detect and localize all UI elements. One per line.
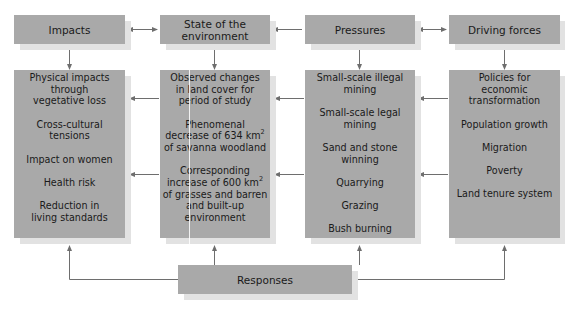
- responses-box: Responses: [178, 265, 352, 294]
- pressures-column: Small-scale illegal mining Small-scale l…: [305, 70, 415, 238]
- state-header: State of the environment: [160, 15, 270, 44]
- pressures-header-label: Pressures: [335, 24, 385, 36]
- state-item-text: Phenomenal decrease of 634 km: [165, 119, 260, 142]
- impact-item: Health risk: [40, 177, 100, 189]
- pressure-item: Small-scale illegal mining: [305, 72, 415, 95]
- pressures-header: Pressures: [305, 15, 415, 44]
- impacts-column: Physical impacts through vegetative loss…: [14, 70, 125, 238]
- state-item-text: of savanna woodland: [164, 142, 266, 153]
- pressure-item: Small-scale legal mining: [305, 107, 415, 130]
- divider-line: [189, 70, 190, 245]
- state-item-text: Corresponding increase of 600 km: [167, 165, 259, 188]
- impact-item: Physical impacts through vegetative loss: [14, 72, 125, 107]
- pressure-item: Bush burning: [324, 223, 396, 235]
- impact-item: Reduction in living standards: [14, 200, 125, 223]
- driving-force-item: Land tenure system: [457, 188, 553, 200]
- driving-forces-header: Driving forces: [449, 15, 560, 44]
- driving-forces-header-label: Driving forces: [468, 24, 541, 36]
- pressure-item: Sand and stone winning: [305, 142, 415, 165]
- driving-force-item: Poverty: [482, 165, 526, 177]
- impact-item: Cross-cultural tensions: [14, 119, 125, 142]
- pressure-item: Grazing: [337, 200, 382, 212]
- driving-force-item: Policies for economic transformation: [449, 72, 560, 107]
- impacts-header: Impacts: [14, 15, 125, 44]
- responses-label: Responses: [237, 274, 293, 286]
- state-column: Observed changes in land cover for perio…: [160, 70, 270, 238]
- state-header-label: State of the environment: [175, 18, 255, 42]
- pressure-item: Quarrying: [332, 177, 388, 189]
- driving-force-item: Population growth: [461, 119, 548, 131]
- state-item: Corresponding increase of 600 km2 of gra…: [160, 165, 270, 224]
- impact-item: Impact on women: [22, 154, 116, 166]
- driving-force-item: Migration: [478, 142, 531, 154]
- superscript: 2: [259, 175, 263, 183]
- state-item-text: of grasses and barren and built-up envir…: [163, 189, 268, 223]
- state-item: Observed changes in land cover for perio…: [160, 72, 270, 107]
- impacts-header-label: Impacts: [49, 24, 91, 36]
- state-item: Phenomenal decrease of 634 km2 of savann…: [160, 119, 270, 154]
- driving-forces-column: Policies for economic transformation Pop…: [449, 70, 560, 238]
- superscript: 2: [261, 128, 265, 136]
